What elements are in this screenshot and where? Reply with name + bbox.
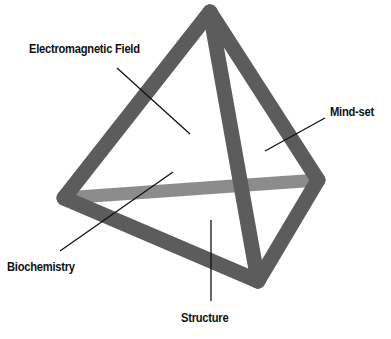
label-structure: Structure <box>181 310 228 325</box>
edge-left-bottom <box>64 198 258 281</box>
edge-top-left <box>64 12 210 198</box>
edge-right-bottom <box>258 180 318 281</box>
edge-back-left-right <box>64 180 318 198</box>
label-biochemistry: Biochemistry <box>7 259 75 274</box>
label-mind-set: Mind-set <box>330 104 374 119</box>
label-electromagnetic-field: Electromagnetic Field <box>29 41 140 56</box>
